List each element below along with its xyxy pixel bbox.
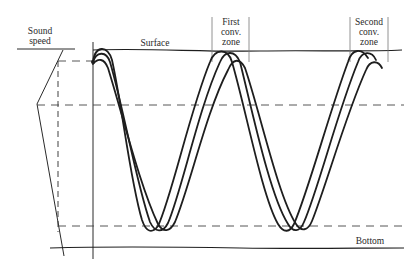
- sound-speed-label-line1: Sound: [20, 26, 60, 36]
- second-zone-label-line3: zone: [347, 37, 391, 47]
- sound-speed-label-line2: speed: [20, 36, 60, 46]
- source-point: [91, 60, 95, 64]
- bottom-label: Bottom: [350, 236, 390, 246]
- second-zone-label-line1: Second: [347, 17, 391, 27]
- first-zone-label-line1: First: [211, 17, 251, 27]
- sound-speed-curve: [37, 50, 64, 256]
- ray-2: [93, 53, 376, 230]
- sound-speed-profile: [17, 49, 75, 256]
- second-zone-label: Second conv. zone: [347, 17, 391, 47]
- sound-rays: [93, 49, 382, 231]
- sound-speed-label: Sound speed: [20, 26, 60, 46]
- bottom-line: [50, 247, 404, 249]
- ray-1: [93, 49, 368, 231]
- first-zone-label: First conv. zone: [211, 17, 251, 47]
- surface-label: Surface: [130, 38, 180, 48]
- first-zone-label-line3: zone: [211, 37, 251, 47]
- second-zone-label-line2: conv.: [347, 27, 391, 37]
- first-zone-label-line2: conv.: [211, 27, 251, 37]
